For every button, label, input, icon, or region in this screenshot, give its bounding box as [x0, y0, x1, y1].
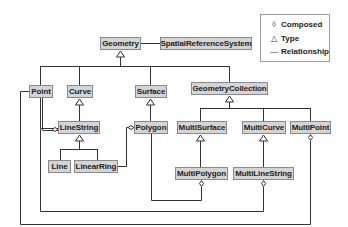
legend-item-relationship: — Relationship: [267, 45, 329, 59]
triangle-icon: [147, 99, 155, 105]
diamond-icon: [309, 135, 313, 141]
triangle-icon: [260, 135, 268, 141]
legend-item-composed: ◊ Composed: [267, 18, 329, 32]
node-linear-ring: LinearRing: [74, 160, 118, 173]
triangle-icon: [226, 96, 234, 102]
node-geometry-collection: GeometryCollection: [191, 82, 268, 95]
node-curve: Curve: [67, 85, 93, 98]
legend: ◊ Composed △ Type — Relationship: [260, 14, 330, 62]
node-multi-polygon: MultiPolygon: [175, 167, 228, 180]
legend-label: Type: [281, 34, 299, 43]
node-polygon: Polygon: [134, 121, 168, 134]
node-multi-surface: MultiSurface: [177, 121, 227, 134]
triangle-icon: [76, 135, 84, 141]
diamond-icon: [262, 181, 266, 187]
legend-label: Relationship: [281, 47, 329, 56]
node-geometry: Geometry: [100, 37, 141, 50]
line-icon: —: [267, 47, 281, 56]
triangle-icon: [197, 135, 205, 141]
diamond-icon: [200, 181, 204, 187]
node-line-string: LineString: [58, 121, 100, 134]
legend-item-type: △ Type: [267, 32, 329, 46]
diamond-icon: ◊: [267, 20, 281, 29]
node-multi-line-string: MultiLineString: [233, 167, 294, 180]
triangle-icon: [76, 99, 84, 105]
legend-label: Composed: [281, 20, 322, 29]
triangle-icon: [117, 51, 125, 57]
node-point: Point: [29, 85, 53, 98]
node-multi-curve: MultiCurve: [242, 121, 286, 134]
triangle-icon: △: [267, 34, 281, 43]
node-surface: Surface: [135, 85, 167, 98]
node-line: Line: [48, 160, 71, 173]
node-spatial-reference-system: SpatialReferenceSystem: [160, 37, 252, 50]
node-multi-point: MultiPoint: [290, 121, 331, 134]
